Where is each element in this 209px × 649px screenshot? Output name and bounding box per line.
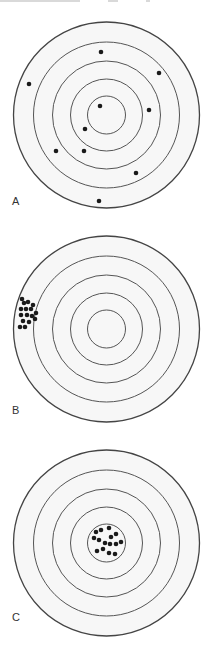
- target-c: [0, 428, 209, 649]
- shot-dot: [108, 542, 113, 547]
- shot-dot: [23, 325, 28, 330]
- shot-dot: [22, 301, 27, 306]
- target-ring: [14, 236, 200, 422]
- shot-dot: [29, 307, 34, 312]
- shot-dot: [21, 319, 26, 324]
- shot-dot: [113, 552, 118, 557]
- shot-dot: [24, 307, 29, 312]
- panel-label-c: C: [12, 612, 20, 623]
- shot-dot: [114, 532, 119, 537]
- shot-dot: [119, 540, 124, 545]
- shot-dot: [107, 526, 112, 531]
- shot-dot: [25, 313, 30, 318]
- shot-dot: [26, 300, 31, 305]
- shot-dot: [33, 317, 38, 322]
- shot-dot: [27, 82, 32, 87]
- shot-dot: [99, 50, 104, 55]
- shot-dot: [94, 530, 99, 535]
- target-panel-b: B: [0, 214, 209, 428]
- shot-dot: [82, 149, 87, 154]
- shot-dot: [147, 108, 152, 113]
- target-ring: [14, 22, 200, 208]
- shot-dot: [54, 149, 59, 154]
- shot-dot: [157, 71, 162, 76]
- shot-dot: [31, 303, 36, 308]
- shot-dot: [20, 297, 25, 302]
- shot-dot: [114, 542, 119, 547]
- shot-dot: [97, 199, 102, 204]
- shot-dot: [109, 535, 114, 540]
- shot-dot: [134, 171, 139, 176]
- shot-dot: [101, 547, 106, 552]
- target-panel-a: A: [0, 0, 209, 214]
- shot-dot: [95, 549, 100, 554]
- target-b: [0, 214, 209, 428]
- target-panel-c: C: [0, 428, 209, 649]
- shot-dot: [98, 104, 103, 109]
- shot-dot: [19, 313, 24, 318]
- panel-label-b: B: [12, 405, 19, 416]
- shot-dot: [97, 538, 102, 543]
- shot-dot: [83, 127, 88, 132]
- shot-dot: [99, 528, 104, 533]
- target-a: [0, 0, 209, 214]
- shot-dot: [27, 320, 32, 325]
- shot-dot: [18, 325, 23, 330]
- shot-dot: [34, 311, 39, 316]
- shot-dot: [103, 541, 108, 546]
- panel-label-a: A: [12, 196, 19, 207]
- shot-dot: [19, 307, 24, 312]
- shot-dot: [107, 551, 112, 556]
- shot-dot: [92, 536, 97, 541]
